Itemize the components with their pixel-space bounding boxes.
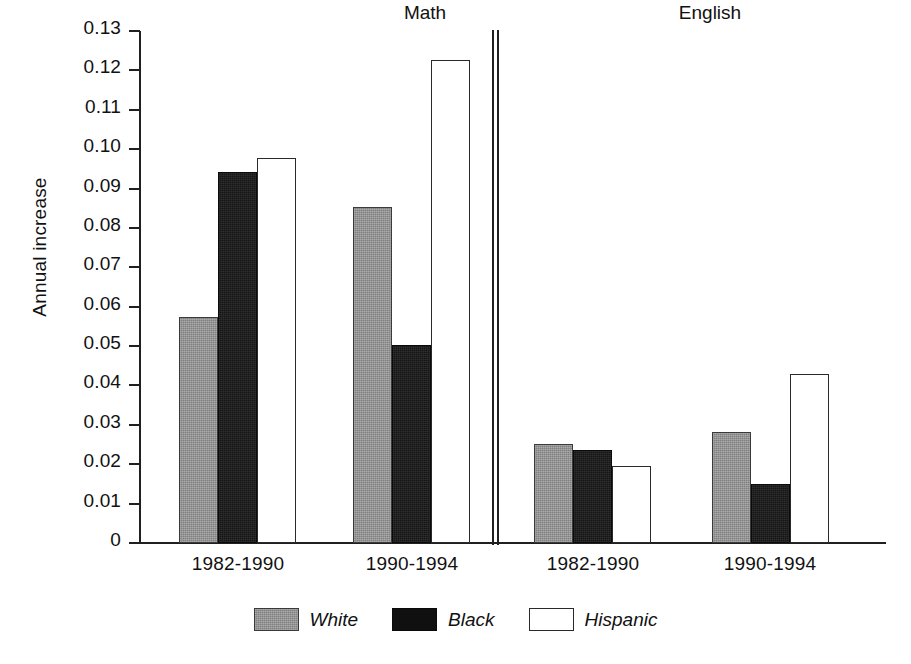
panel-title-english: English xyxy=(679,2,741,24)
legend-swatch-white-icon xyxy=(254,608,299,631)
x-group-label-math-1982-1990: 1982-1990 xyxy=(192,553,285,575)
legend-swatch-hispanic-icon xyxy=(529,608,574,631)
y-tick-label: 0.07 xyxy=(84,253,121,275)
bar-english-1982-1990-hispanic xyxy=(612,466,651,543)
bar-math-1982-1990-hispanic xyxy=(257,158,296,543)
bar-math-1982-1990-black xyxy=(218,172,257,543)
y-tick-label: 0.02 xyxy=(84,450,121,472)
bar-english-1990-1994-white xyxy=(712,432,751,543)
panel-title-math: Math xyxy=(404,2,446,24)
y-tick-0-13: 0.13 xyxy=(129,30,140,32)
bar-math-1982-1990-white xyxy=(179,317,218,543)
y-tick-0-10: 0.10 xyxy=(129,148,140,150)
y-tick-0-08: 0.08 xyxy=(129,227,140,229)
bar-english-1990-1994-black xyxy=(751,484,790,543)
legend-item-hispanic: Hispanic xyxy=(529,608,658,631)
y-tick-0-01: 0.01 xyxy=(129,503,140,505)
legend-label-black: Black xyxy=(448,609,494,631)
chart-legend: White Black Hispanic xyxy=(0,608,911,631)
y-tick-label: 0.05 xyxy=(84,332,121,354)
y-tick-label: 0.08 xyxy=(84,214,121,236)
bar-english-1982-1990-white xyxy=(534,444,573,543)
bar-math-1990-1994-white xyxy=(353,207,392,543)
y-tick-label: 0.09 xyxy=(84,175,121,197)
y-axis-label: Annual increase xyxy=(29,97,51,397)
y-tick-label: 0 xyxy=(110,529,121,551)
y-tick-label: 0.03 xyxy=(84,411,121,433)
legend-swatch-black-icon xyxy=(392,608,437,631)
y-tick-0-02: 0.02 xyxy=(129,463,140,465)
panel-divider xyxy=(492,30,498,545)
legend-item-white: White xyxy=(254,608,359,631)
y-tick-0-09: 0.09 xyxy=(129,188,140,190)
bar-english-1982-1990-black xyxy=(573,450,612,543)
x-group-label-english-1982-1990: 1982-1990 xyxy=(547,553,640,575)
y-tick-label: 0.12 xyxy=(84,56,121,78)
y-tick-label: 0.01 xyxy=(84,490,121,512)
y-tick-0-04: 0.04 xyxy=(129,384,140,386)
y-tick-label: 0.06 xyxy=(84,293,121,315)
y-tick-0-11: 0.11 xyxy=(129,109,140,111)
y-tick-0-06: 0.06 xyxy=(129,306,140,308)
legend-item-black: Black xyxy=(392,608,494,631)
plot-area: 0.130.120.110.100.090.080.070.060.050.04… xyxy=(140,31,885,543)
bar-math-1990-1994-black xyxy=(392,345,431,543)
x-group-label-math-1990-1994: 1990-1994 xyxy=(366,553,459,575)
y-tick-label: 0.04 xyxy=(84,371,121,393)
y-tick-0-03: 0.03 xyxy=(129,424,140,426)
y-tick-label: 0.11 xyxy=(85,96,121,118)
legend-label-white: White xyxy=(310,609,359,631)
bar-math-1990-1994-hispanic xyxy=(431,60,470,543)
bar-english-1990-1994-hispanic xyxy=(790,374,829,543)
y-tick-0-05: 0.05 xyxy=(129,345,140,347)
y-tick-label: 0.13 xyxy=(84,17,121,39)
legend-label-hispanic: Hispanic xyxy=(585,609,658,631)
y-tick-0-07: 0.07 xyxy=(129,266,140,268)
y-tick-0: 0 xyxy=(129,542,140,544)
x-group-label-english-1990-1994: 1990-1994 xyxy=(724,553,817,575)
y-tick-label: 0.10 xyxy=(84,135,121,157)
y-tick-0-12: 0.12 xyxy=(129,69,140,71)
bar-chart-figure: Annual increase 0.130.120.110.100.090.08… xyxy=(0,0,911,664)
